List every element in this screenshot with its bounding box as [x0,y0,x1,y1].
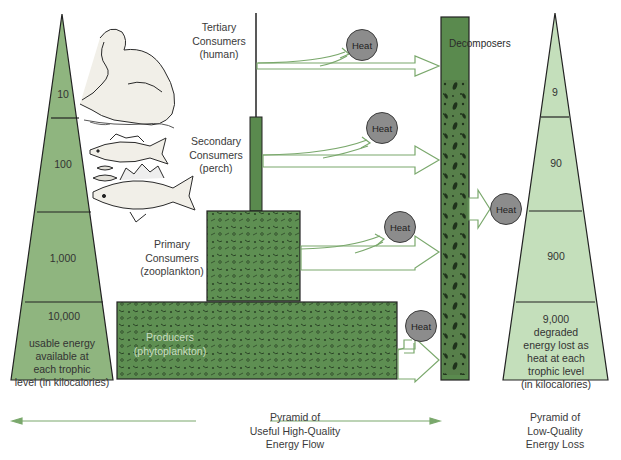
left-level-1-value: 10 [46,88,80,101]
left-level-2-value: 100 [40,158,86,171]
human-fish-illustration [80,29,195,222]
heat-circle-secondary: Heat [366,112,398,144]
left-pyramid-note: usable energy available at each trophic … [10,337,114,389]
tertiary-consumers-label: Tertiary Consumers (human) [184,21,254,62]
decomposers-label: Decomposers [449,38,511,49]
heat-circle-tertiary: Heat [346,29,378,61]
right-level-1-value: 9 [540,86,570,99]
primary-consumers-block [207,211,300,301]
right-level-2-value: 90 [536,157,576,170]
right-pyramid-note: degraded energy lost as heat at each tro… [506,326,606,391]
decomposer-organisms [443,80,467,375]
left-pyramid-title: Pyramid of Useful High-Quality Energy Fl… [240,411,350,452]
flow-direction-arrow [12,418,440,424]
left-level-3-value: 1,000 [30,252,96,265]
diagram-canvas [0,0,621,460]
left-level-4-value: 10,000 [22,310,106,323]
heat-circle-producers: Heat [405,310,437,342]
secondary-consumers-label: Secondary Consumers (perch) [180,135,252,176]
right-pyramid-title: Pyramid of Low-Quality Energy Loss [510,411,600,452]
primary-consumers-label: Primary Consumers (zooplankton) [134,238,210,279]
right-level-4-value: 9,000 [512,313,600,326]
producers-label: Producers (phytoplankton) [130,330,210,358]
right-level-3-value: 900 [528,250,584,263]
heat-circle-decomposers: Heat [490,193,522,225]
heat-circle-primary: Heat [384,211,416,243]
